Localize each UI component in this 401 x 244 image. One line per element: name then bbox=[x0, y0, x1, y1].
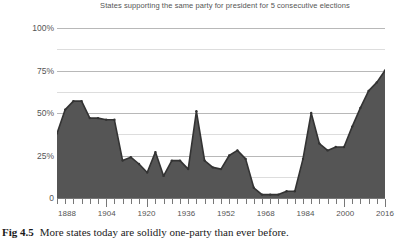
chart-title: States supporting the same party for pre… bbox=[60, 1, 390, 10]
y-tick-label-0: 0 bbox=[49, 194, 54, 203]
x-axis-tick-labels: 188819041920193619521968198420002016 bbox=[0, 209, 401, 221]
x-tick-label-1888: 1888 bbox=[58, 209, 76, 218]
x-tick-1980 bbox=[295, 199, 296, 204]
area-fill-shape bbox=[57, 71, 385, 199]
y-tick-label-75: 75% bbox=[37, 67, 54, 76]
x-tick-1897 bbox=[90, 199, 91, 204]
x-tick-1960 bbox=[246, 199, 247, 204]
x-tick-1937 bbox=[188, 199, 189, 204]
x-tick-1927 bbox=[164, 199, 165, 204]
x-tick-1990 bbox=[319, 199, 320, 204]
y-tick-label-25: 25% bbox=[37, 152, 54, 161]
x-tick-1907 bbox=[114, 199, 115, 204]
caption-text: More states today are solidly one-party … bbox=[40, 226, 289, 238]
x-tick-2003 bbox=[352, 199, 353, 204]
x-tick-1950 bbox=[221, 199, 222, 204]
x-tick-1891 bbox=[73, 199, 74, 204]
x-tick-1963 bbox=[254, 199, 255, 204]
x-tick-1894 bbox=[82, 199, 83, 204]
x-tick-1884 bbox=[57, 199, 58, 204]
x-tick-1904 bbox=[106, 199, 107, 207]
x-tick-1957 bbox=[237, 199, 238, 204]
x-tick-1967 bbox=[262, 199, 263, 204]
x-tick-label-1984: 1984 bbox=[297, 209, 315, 218]
x-axis-ticks bbox=[57, 199, 385, 208]
x-tick-1993 bbox=[328, 199, 329, 204]
figure-container: States supporting the same party for pre… bbox=[0, 0, 401, 244]
x-tick-1920 bbox=[147, 199, 148, 207]
x-tick-1887 bbox=[65, 199, 66, 204]
x-tick-1901 bbox=[98, 199, 99, 204]
x-tick-2013 bbox=[377, 199, 378, 204]
x-tick-1973 bbox=[278, 199, 279, 204]
x-tick-label-1936: 1936 bbox=[177, 209, 195, 218]
x-tick-2009 bbox=[369, 199, 370, 204]
area-series bbox=[57, 28, 385, 198]
x-tick-label-1968: 1968 bbox=[257, 209, 275, 218]
x-tick-label-1920: 1920 bbox=[138, 209, 156, 218]
caption-label: Fig 4.5 bbox=[2, 226, 34, 238]
x-tick-1947 bbox=[213, 199, 214, 204]
x-tick-1953 bbox=[229, 199, 230, 204]
x-tick-1986 bbox=[311, 199, 312, 204]
x-tick-1943 bbox=[205, 199, 206, 204]
x-tick-1924 bbox=[155, 199, 156, 204]
x-tick-label-1952: 1952 bbox=[217, 209, 235, 218]
x-tick-label-1904: 1904 bbox=[98, 209, 116, 218]
x-tick-2016 bbox=[385, 199, 386, 207]
x-tick-1910 bbox=[123, 199, 124, 204]
figure-caption: Fig 4.5More states today are solidly one… bbox=[2, 226, 399, 238]
x-tick-2000 bbox=[344, 199, 345, 207]
y-tick-label-50: 50% bbox=[37, 109, 54, 118]
x-tick-1914 bbox=[131, 199, 132, 204]
x-tick-1917 bbox=[139, 199, 140, 204]
x-tick-1934 bbox=[180, 199, 181, 204]
x-tick-1983 bbox=[303, 199, 304, 204]
x-tick-1940 bbox=[196, 199, 197, 204]
plot-area bbox=[57, 28, 385, 198]
x-tick-2006 bbox=[360, 199, 361, 204]
x-tick-label-2000: 2000 bbox=[336, 209, 354, 218]
x-tick-1970 bbox=[270, 199, 271, 204]
y-tick-label-100: 100% bbox=[32, 24, 54, 33]
x-tick-1996 bbox=[336, 199, 337, 204]
x-tick-label-2016: 2016 bbox=[376, 209, 394, 218]
x-tick-1976 bbox=[287, 199, 288, 204]
x-tick-1930 bbox=[172, 199, 173, 204]
